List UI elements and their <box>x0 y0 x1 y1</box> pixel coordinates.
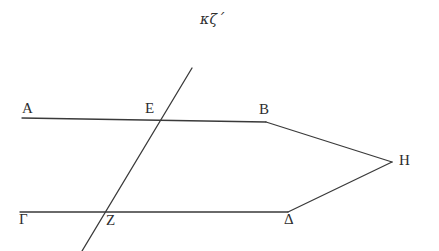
point-label-E: E <box>145 101 154 116</box>
segment-group <box>20 68 392 251</box>
point-label-Delta: Δ <box>284 212 294 227</box>
upper-converging-segment <box>266 122 392 162</box>
point-label-B: B <box>259 102 269 117</box>
transversal-line <box>82 68 192 251</box>
handwritten-numeral-note: κζ΄ <box>200 12 224 26</box>
figure-canvas <box>0 0 439 251</box>
geometry-figure: A E B H Γ Z Δ κζ΄ <box>0 0 439 251</box>
point-label-Gamma: Γ <box>19 212 28 227</box>
point-label-Z: Z <box>106 213 115 228</box>
lower-converging-segment <box>288 162 392 212</box>
top-horizontal-line <box>22 118 266 122</box>
point-label-H: H <box>399 153 410 168</box>
point-label-A: A <box>22 101 33 116</box>
